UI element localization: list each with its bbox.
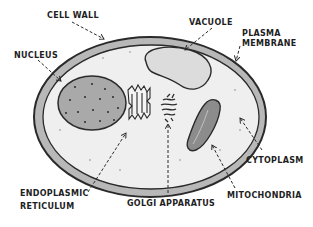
label-golgi-apparatus: GOLGI APPARATUS [127, 199, 215, 208]
cell-wall-leader [72, 22, 104, 39]
plasma-membrane-leader [236, 46, 240, 61]
label-mitochondria: MITOCHONDRIA [227, 191, 302, 200]
label-endoplasmic-reticulum-1: ENDOPLASMIC [20, 189, 89, 198]
label-plasma-membrane-1: PLASMA [242, 29, 281, 38]
label-cell-wall: CELL WALL [47, 11, 99, 20]
label-nucleus: NUCLEUS [14, 51, 58, 60]
plant-cell-diagram: CELL WALL NUCLEUS VACUOLE PLASMA MEMBRAN… [0, 0, 313, 227]
label-endoplasmic-reticulum-2: RETICULUM [20, 202, 74, 211]
label-vacuole: VACUOLE [189, 18, 233, 27]
nucleus [58, 76, 126, 130]
label-plasma-membrane-2: MEMBRANE [242, 39, 296, 48]
label-cytoplasm: CYTOPLASM [246, 156, 304, 165]
